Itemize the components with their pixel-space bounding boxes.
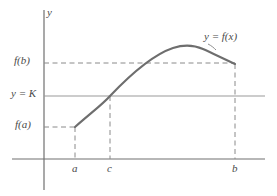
figure-canvas: f(b) y = K f(a) y a c b y = f(x) [0, 0, 277, 196]
y-equals-k-label: y = K [11, 88, 36, 99]
y-axis-label: y [47, 7, 52, 18]
x-tick-label-a: a [72, 163, 78, 174]
curve-label-leader [208, 44, 216, 50]
curve-label: y = f(x) [204, 31, 237, 42]
f-of-a-label: f(a) [15, 119, 31, 130]
x-tick-label-c: c [107, 163, 112, 174]
x-tick-label-b: b [232, 163, 238, 174]
function-curve [75, 45, 235, 127]
f-of-b-label: f(b) [14, 55, 30, 66]
